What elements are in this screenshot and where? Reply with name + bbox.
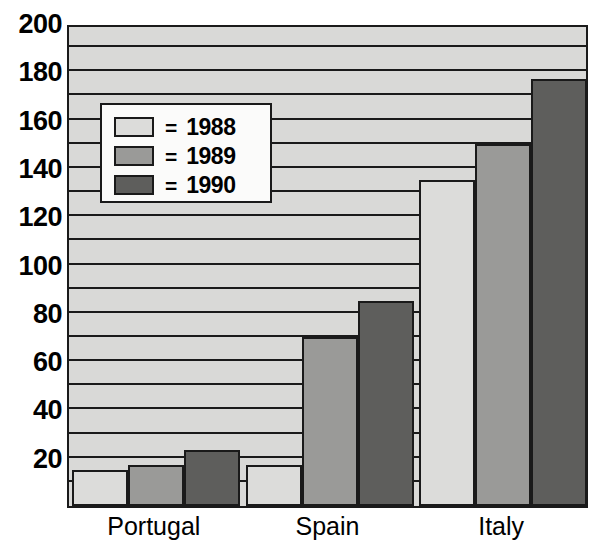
y-axis-tick-label: 120 [4, 204, 62, 231]
y-axis-tick-label: 100 [4, 253, 62, 280]
chart-legend: =1988=1989=1990 [100, 103, 272, 203]
bar-portugal-1990 [184, 450, 240, 506]
bar-italy-1990 [531, 79, 587, 506]
y-axis-tick-label: 40 [4, 397, 62, 424]
y-axis-tick-label: 20 [4, 446, 62, 473]
y-axis: 20018016014012010080604020 [0, 0, 62, 549]
legend-swatch-1988 [114, 117, 154, 137]
x-axis-label-portugal: Portugal [67, 514, 241, 539]
x-axis-label-spain: Spain [241, 514, 415, 539]
legend-label: 1988 [186, 116, 235, 139]
legend-swatch-1990 [114, 175, 154, 195]
legend-equals-sign: = [165, 146, 177, 167]
bar-portugal-1988 [72, 470, 128, 506]
y-axis-tick-label: 140 [4, 156, 62, 183]
x-axis-label-italy: Italy [414, 514, 588, 539]
bar-spain-1988 [246, 465, 302, 506]
legend-item-1988: =1988 [114, 113, 270, 141]
y-axis-tick-label: 180 [4, 59, 62, 86]
x-axis: PortugalSpainItaly [67, 512, 588, 549]
plot-area [67, 25, 588, 508]
bars-group [69, 27, 586, 506]
bar-spain-1990 [358, 301, 414, 506]
bar-italy-1988 [419, 180, 475, 506]
y-axis-tick-label: 80 [4, 301, 62, 328]
legend-swatch-1989 [114, 146, 154, 166]
legend-item-1989: =1989 [114, 142, 270, 170]
legend-item-1990: =1990 [114, 171, 270, 199]
y-axis-tick-label: 60 [4, 349, 62, 376]
y-axis-tick-label: 200 [4, 11, 62, 38]
bar-chart: 20018016014012010080604020 =1988=1989=19… [0, 0, 606, 549]
legend-label: 1990 [186, 174, 235, 197]
bar-portugal-1989 [128, 465, 184, 506]
legend-equals-sign: = [165, 117, 177, 138]
y-axis-tick-label: 160 [4, 108, 62, 135]
bar-spain-1989 [302, 337, 358, 506]
bar-italy-1989 [475, 144, 531, 506]
legend-equals-sign: = [165, 175, 177, 196]
legend-label: 1989 [186, 145, 235, 168]
